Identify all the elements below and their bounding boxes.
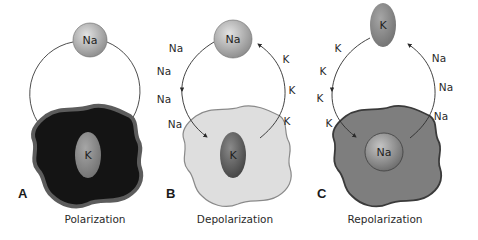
ion-flow-label: Na [157,93,171,105]
cardiac-cell-ion-diagram: K Na A Polarization K Na Na Na Na Na K K… [0,0,478,240]
ion-flow-label: K [284,115,292,127]
inner-ion-label: K [229,149,237,162]
ion-flow-label: Na [432,52,446,64]
panel-letter: B [166,186,175,201]
panel-letter: A [18,186,28,201]
panel-caption: Depolarization [197,213,273,225]
ion-flow-label: Na [169,42,183,54]
ion-flow-label: K [335,42,343,54]
inner-ion-label: K [84,149,92,162]
panel-a-polarization: K Na A Polarization [18,23,141,225]
ion-flow-label: Na [168,118,182,130]
panel-letter: C [317,186,327,201]
outer-ion-label: K [379,19,387,32]
panel-b-depolarization: K Na Na Na Na Na K K K B Depolarization [157,20,297,225]
panel-caption: Repolarization [347,213,422,225]
ion-flow-label: K [320,65,328,77]
ion-flow-label: K [317,92,325,104]
ion-flow-label: Na [434,110,448,122]
ion-flow-label: K [289,84,297,96]
panel-caption: Polarization [64,213,125,225]
outer-ion-label: Na [226,33,241,46]
panel-c-repolarization: Na K K K K K Na Na Na C Repolarization [317,3,454,225]
ion-flow-label: K [326,117,334,129]
inner-ion-label: Na [377,146,392,159]
outer-ion-label: Na [83,34,98,47]
ion-flow-label: K [283,53,291,65]
ion-flow-label: Na [157,65,171,77]
ion-flow-label: Na [439,81,453,93]
